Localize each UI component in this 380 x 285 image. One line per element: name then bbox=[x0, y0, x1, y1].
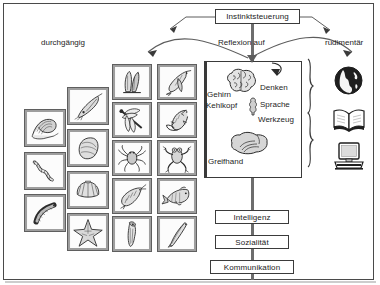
frame-shadow bbox=[5, 281, 376, 283]
outcome-label-sozialitaet: Sozialität bbox=[235, 238, 268, 247]
instinct-control-label: Instinktsteuerung bbox=[226, 12, 289, 21]
trait-label-greifhand: Greifhand bbox=[208, 157, 243, 166]
scallop-tile[interactable] bbox=[68, 172, 108, 208]
instinct-control-box[interactable]: Instinktsteuerung bbox=[215, 9, 300, 24]
eel-tile[interactable] bbox=[158, 217, 196, 251]
spine-segment-b2 bbox=[251, 249, 254, 260]
trait-label-denken: Denken bbox=[260, 83, 288, 92]
frog-tile[interactable] bbox=[158, 141, 196, 175]
lizard-tile[interactable] bbox=[158, 103, 196, 137]
trait-label-sprache: Sprache bbox=[260, 100, 290, 109]
spine-segment-b1 bbox=[251, 224, 254, 235]
outcome-label-intelligenz: Intelligenz bbox=[233, 213, 270, 222]
globe-icon bbox=[334, 66, 363, 95]
label-rudimentaer: rudimentär bbox=[325, 38, 363, 47]
computer-icon bbox=[334, 142, 364, 170]
dragonfly-tile[interactable] bbox=[113, 103, 151, 137]
trait-label-kehlkopf: Kehlkopf bbox=[206, 101, 237, 110]
spider-tile[interactable] bbox=[113, 141, 151, 175]
larva-tile[interactable] bbox=[113, 65, 151, 99]
diagram-canvas: Instinktsteuerung durchgängig Reflexion … bbox=[0, 0, 380, 285]
worm-tile[interactable] bbox=[25, 195, 65, 231]
trait-label-gehirn: Gehirn bbox=[207, 90, 231, 99]
outcome-label-kommunikation: Kommunikation bbox=[224, 263, 280, 272]
open-book-icon bbox=[332, 108, 366, 132]
hand-icon bbox=[228, 130, 269, 156]
snail-tile[interactable] bbox=[25, 110, 65, 146]
outcome-box-intelligenz[interactable]: Intelligenz bbox=[215, 210, 289, 224]
spine-segment-bottom bbox=[251, 274, 254, 280]
fish-tile[interactable] bbox=[158, 179, 196, 213]
shrimp-tile[interactable] bbox=[113, 179, 151, 213]
label-durchgaengig: durchgängig bbox=[41, 38, 85, 47]
squid-tile[interactable] bbox=[113, 217, 151, 251]
trait-label-werkzeug: Werkzeug bbox=[258, 115, 294, 124]
bird-tile[interactable] bbox=[158, 65, 196, 99]
outcome-box-kommunikation[interactable]: Kommunikation bbox=[210, 260, 294, 274]
label-reflexion-auf: Reflexion auf bbox=[218, 38, 265, 47]
mussel-tile[interactable] bbox=[68, 130, 108, 166]
cephalopod-tile[interactable] bbox=[68, 88, 108, 124]
spine-segment-middle bbox=[251, 178, 254, 210]
outcome-box-sozialitaet[interactable]: Sozialität bbox=[215, 235, 289, 249]
larynx-icon bbox=[249, 97, 258, 116]
starfish-tile[interactable] bbox=[68, 214, 108, 250]
segmented-worm-tile[interactable] bbox=[25, 153, 65, 189]
